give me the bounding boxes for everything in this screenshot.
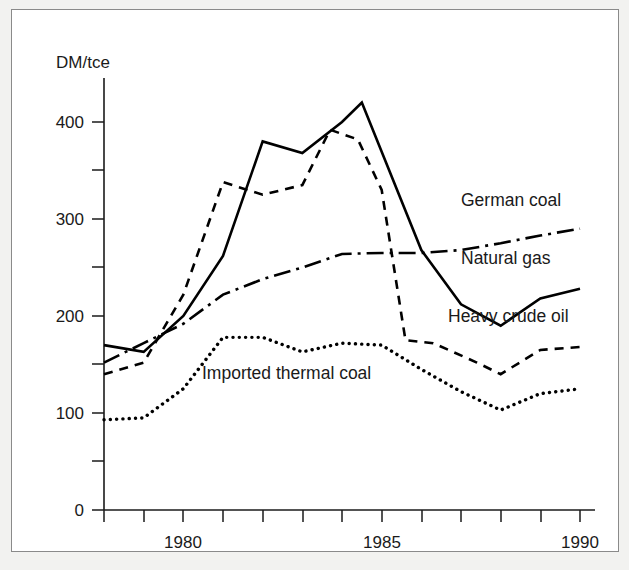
figure-root: DM/tce 400 300 200 100 0 — [0, 0, 629, 570]
chart-panel — [11, 9, 619, 552]
